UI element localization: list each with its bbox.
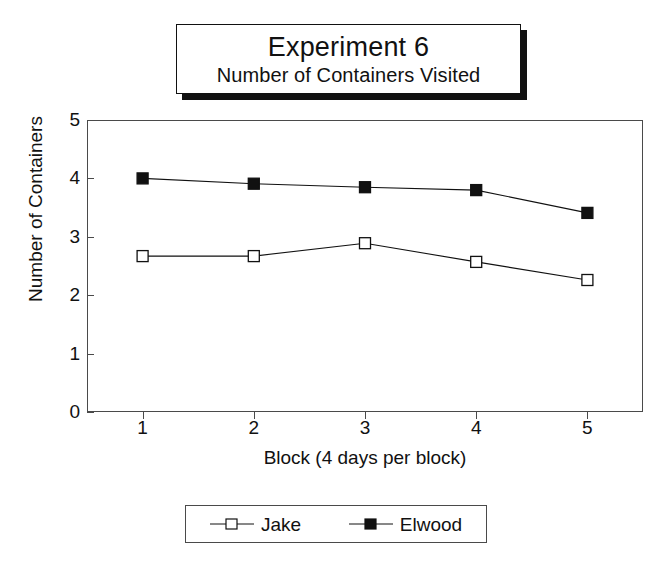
open-square-marker-icon bbox=[582, 275, 593, 286]
legend-item-elwood[interactable]: Elwood bbox=[349, 515, 462, 534]
x-tick-mark bbox=[587, 412, 588, 419]
x-tick-mark bbox=[365, 412, 366, 419]
filled-square-marker-icon bbox=[471, 185, 482, 196]
legend-label-jake: Jake bbox=[261, 515, 301, 534]
filled-square-marker-icon bbox=[137, 173, 148, 184]
y-tick-mark bbox=[87, 354, 94, 355]
y-tick-mark bbox=[87, 178, 94, 179]
data-series-layer bbox=[0, 0, 672, 563]
y-tick-mark bbox=[87, 412, 94, 413]
filled-square-marker-icon bbox=[349, 516, 393, 532]
legend-item-jake[interactable]: Jake bbox=[210, 515, 301, 534]
y-tick-mark bbox=[87, 295, 94, 296]
filled-square-marker-icon bbox=[582, 207, 593, 218]
x-tick-mark bbox=[254, 412, 255, 419]
legend-label-elwood: Elwood bbox=[400, 515, 462, 534]
x-tick-mark bbox=[143, 412, 144, 419]
open-square-marker-icon bbox=[471, 256, 482, 267]
filled-square-marker-icon bbox=[360, 182, 371, 193]
filled-square-marker-icon bbox=[248, 178, 259, 189]
open-square-marker-icon bbox=[248, 251, 259, 262]
open-square-marker-icon bbox=[360, 238, 371, 249]
chart-container: 012345 Number of Containers 12345 Block … bbox=[0, 0, 672, 563]
y-tick-mark bbox=[87, 120, 94, 121]
open-square-marker-icon bbox=[210, 516, 254, 532]
open-square-marker-icon bbox=[137, 251, 148, 262]
series-jake bbox=[137, 238, 593, 286]
y-tick-mark bbox=[87, 237, 94, 238]
x-tick-mark bbox=[476, 412, 477, 419]
series-elwood bbox=[137, 173, 593, 219]
chart-legend: Jake Elwood bbox=[185, 505, 487, 543]
